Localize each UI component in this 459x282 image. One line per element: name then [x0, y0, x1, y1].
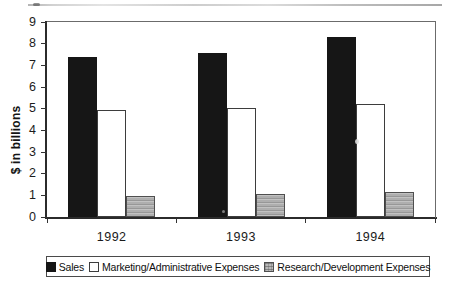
y-tick-label-4: 4: [19, 123, 36, 138]
y-tick-mark: [41, 22, 47, 23]
bar-marketing-admin-1992: [97, 110, 126, 217]
bar-marketing-admin-1993: [227, 108, 256, 217]
y-tick-mark: [41, 173, 47, 174]
y-tick-mark: [41, 87, 47, 88]
scan-artifact-blot: [33, 3, 40, 6]
y-tick-label-3: 3: [19, 145, 36, 160]
y-tick-label-5: 5: [19, 101, 36, 116]
bar-research-dev-1993: [256, 194, 285, 217]
legend: SalesMarketing/Administrative ExpensesRe…: [46, 256, 430, 277]
legend-swatch-research-dev: [264, 262, 274, 272]
legend-label-research-dev: Research/Development Expenses: [277, 261, 430, 273]
x-tick-mark: [47, 219, 48, 223]
x-axis-label-1993: 1993: [211, 230, 271, 244]
plot-frame-right: [435, 21, 436, 218]
legend-swatch-marketing-admin: [89, 262, 99, 272]
x-axis-line: [45, 217, 437, 219]
legend-swatch-sales: [46, 262, 56, 272]
scan-artifact-line: [28, 4, 442, 6]
y-tick-label-6: 6: [19, 80, 36, 95]
legend-item-sales: Sales: [46, 261, 84, 273]
bar-research-dev-1992: [126, 196, 155, 217]
x-tick-mark: [435, 219, 436, 223]
y-tick-mark: [41, 152, 47, 153]
scan-speck: [355, 139, 359, 144]
y-tick-label-7: 7: [19, 58, 36, 73]
legend-item-research-dev: Research/Development Expenses: [264, 261, 430, 273]
y-tick-label-1: 1: [19, 188, 36, 203]
y-tick-label-8: 8: [19, 36, 36, 51]
y-tick-mark: [41, 108, 47, 109]
y-axis-line: [45, 21, 47, 219]
y-tick-mark: [41, 217, 47, 218]
y-tick-mark: [41, 43, 47, 44]
bar-chart-figure: $ in billions 0123456789 199219931994 Sa…: [0, 0, 459, 282]
legend-label-sales: Sales: [59, 261, 84, 273]
legend-label-marketing-admin: Marketing/Administrative Expenses: [102, 261, 259, 273]
y-tick-mark: [41, 130, 47, 131]
x-axis-label-1992: 1992: [82, 230, 142, 244]
x-tick-mark: [305, 219, 306, 223]
y-tick-mark: [41, 195, 47, 196]
legend-item-marketing-admin: Marketing/Administrative Expenses: [89, 261, 259, 273]
bar-sales-1993: [198, 53, 227, 217]
x-tick-mark: [176, 219, 177, 223]
bar-sales-1994: [327, 37, 356, 217]
y-tick-label-9: 9: [19, 15, 36, 30]
y-tick-label-0: 0: [19, 210, 36, 225]
bar-marketing-admin-1994: [356, 104, 385, 217]
bar-sales-1992: [68, 57, 97, 217]
x-axis-label-1994: 1994: [340, 230, 400, 244]
plot-frame-top: [47, 21, 436, 22]
scan-speck: [222, 210, 225, 213]
bar-research-dev-1994: [385, 192, 414, 217]
y-tick-label-2: 2: [19, 166, 36, 181]
y-tick-mark: [41, 65, 47, 66]
